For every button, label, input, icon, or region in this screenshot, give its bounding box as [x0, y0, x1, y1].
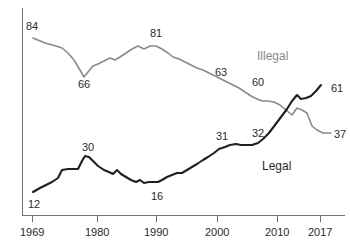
x-axis-ticks	[33, 216, 321, 223]
x-tick-label-1969: 1969	[20, 226, 44, 238]
x-tick-label-1990: 1990	[144, 226, 168, 238]
data-label-illegal-81: 81	[150, 27, 162, 39]
x-tick-label-2017: 2017	[308, 226, 332, 238]
data-label-illegal-63: 63	[215, 66, 227, 78]
data-label-legal-32: 32	[252, 127, 264, 139]
data-label-illegal-66: 66	[78, 78, 90, 90]
series-label-legal: Legal	[262, 160, 291, 172]
data-label-legal-31: 31	[216, 130, 228, 142]
x-tick-label-2010: 2010	[265, 226, 289, 238]
data-label-legal-16: 16	[151, 190, 163, 202]
data-label-legal-61: 61	[331, 82, 343, 94]
data-label-legal-30: 30	[82, 141, 94, 153]
data-label-illegal-60: 60	[252, 76, 264, 88]
data-label-legal-12: 12	[28, 198, 40, 210]
x-tick-label-2000: 2000	[205, 226, 229, 238]
data-label-illegal-84: 84	[26, 20, 38, 32]
x-tick-label-1980: 1980	[85, 226, 109, 238]
line-chart: 84 66 81 63 60 37 12 30 16 31 32 61 Ille…	[0, 0, 350, 249]
chart-plot-area	[0, 0, 350, 249]
series-label-illegal: Illegal	[257, 50, 288, 62]
series-line-legal	[33, 85, 321, 192]
data-label-illegal-37: 37	[334, 128, 346, 140]
